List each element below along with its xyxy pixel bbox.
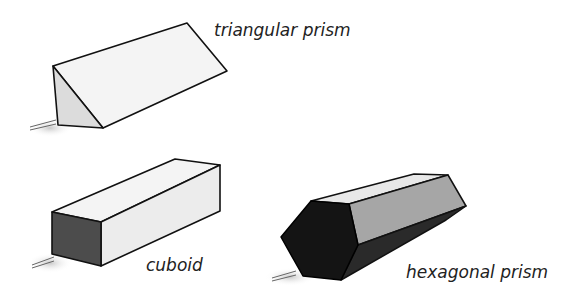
cuboid-label: cuboid [146, 255, 203, 275]
prism-diagram: triangular prism cuboid hexagonal prism [0, 0, 569, 298]
triangular-prism-label: triangular prism [214, 20, 351, 40]
triangular-prism-shape [28, 23, 227, 137]
hexagonal-prism-label: hexagonal prism [406, 262, 548, 282]
shapes-illustration [0, 0, 569, 298]
